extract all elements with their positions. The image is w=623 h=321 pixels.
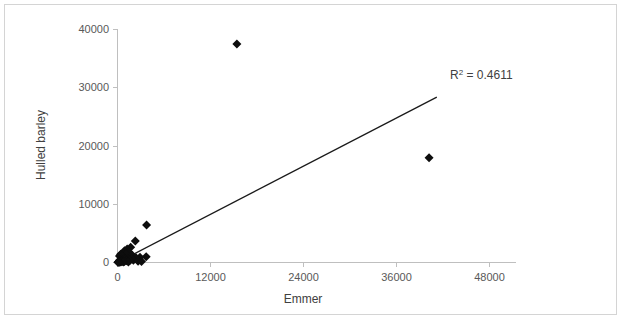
y-tick-label-30000: 30000 [78, 81, 109, 93]
data-point [425, 153, 434, 162]
y-tick-label-20000: 20000 [78, 140, 109, 152]
x-axis-title: Emmer [284, 292, 323, 306]
y-tick-label-10000: 10000 [78, 198, 109, 210]
y-tick-label-0: 0 [103, 256, 109, 268]
x-tick-label-48000: 48000 [474, 271, 505, 283]
x-tick-label-24000: 24000 [288, 271, 319, 283]
x-tick-label-0: 0 [114, 271, 120, 283]
x-tick-label-12000: 12000 [195, 271, 226, 283]
data-point-group [113, 40, 433, 267]
y-tick-label-40000: 40000 [78, 23, 109, 35]
y-axis-ticks [113, 30, 118, 263]
y-axis-title: Hulled barley [34, 110, 48, 180]
x-tick-label-36000: 36000 [381, 271, 412, 283]
data-point [232, 40, 241, 49]
data-point [131, 236, 140, 245]
linear-trendline [118, 97, 437, 262]
data-point [142, 220, 151, 229]
scatter-plot: 0 10000 20000 30000 40000 0 12000 24000 … [0, 0, 623, 321]
chart-figure: 0 10000 20000 30000 40000 0 12000 24000 … [0, 0, 623, 321]
x-axis-ticks [118, 263, 490, 268]
r-squared-annotation: R2 = 0.4611 [450, 68, 513, 83]
